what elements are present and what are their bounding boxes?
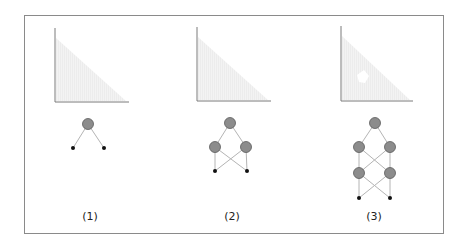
input-node	[102, 146, 106, 150]
hidden-unit-node	[370, 118, 381, 129]
hidden-unit-node	[241, 142, 252, 153]
input-node	[357, 196, 361, 200]
decision-region-1	[56, 38, 126, 101]
input-node	[213, 169, 217, 173]
hidden-unit-node	[385, 168, 396, 179]
hidden-unit-node	[83, 119, 94, 130]
panel-label-3: (3)	[366, 210, 382, 223]
hidden-unit-node	[210, 142, 221, 153]
panel-label-2: (2)	[224, 210, 240, 223]
input-node	[388, 196, 392, 200]
input-node	[245, 169, 249, 173]
decision-region-3	[342, 36, 410, 100]
decision-region-2	[198, 37, 268, 100]
hidden-unit-node	[354, 168, 365, 179]
hidden-unit-node	[225, 118, 236, 129]
panel-label-1: (1)	[82, 210, 98, 223]
hidden-unit-node	[354, 142, 365, 153]
hidden-unit-node	[385, 142, 396, 153]
input-node	[71, 146, 75, 150]
